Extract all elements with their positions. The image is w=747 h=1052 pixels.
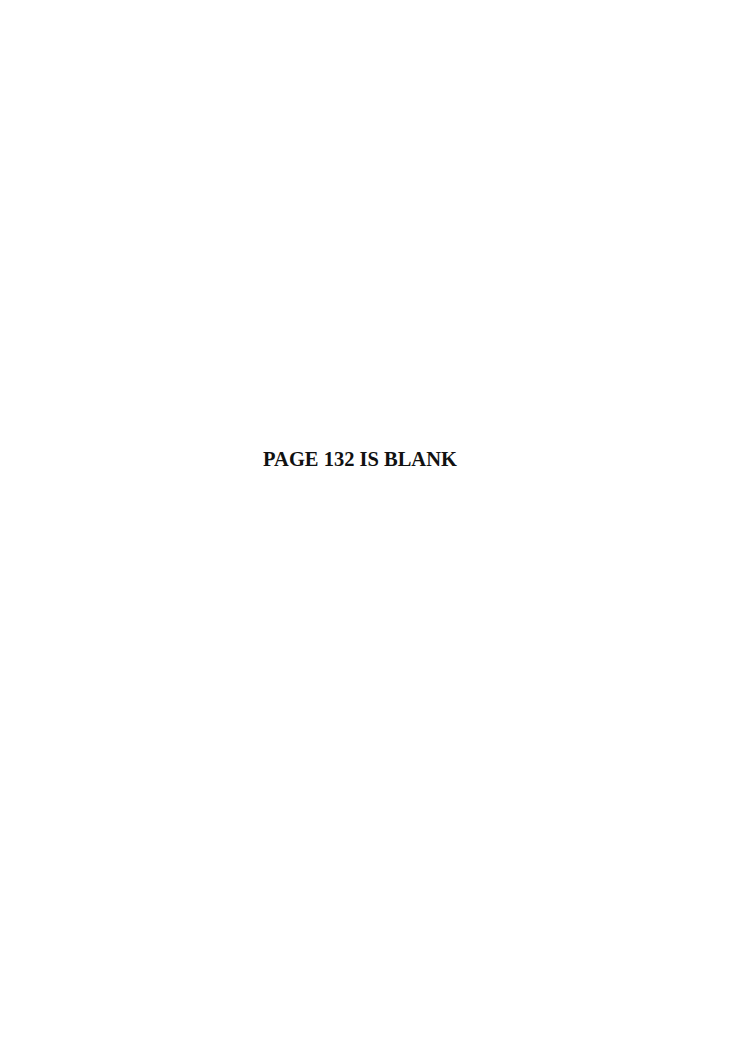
document-page: PAGE 132 IS BLANK — [0, 0, 747, 1052]
blank-page-notice: PAGE 132 IS BLANK — [0, 447, 720, 471]
